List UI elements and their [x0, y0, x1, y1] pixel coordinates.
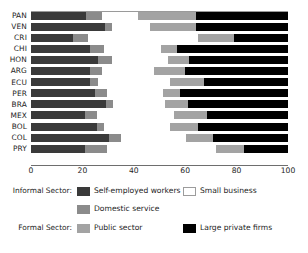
bar-segment	[121, 134, 187, 142]
legend-swatch-public-sector-icon	[77, 224, 90, 233]
bar-track	[31, 134, 288, 142]
bar-segment	[244, 145, 288, 153]
bar-category-label: PER	[0, 88, 27, 99]
bar-segment	[85, 145, 107, 153]
bar-track	[31, 23, 288, 31]
bar-category-label: CRI	[0, 32, 27, 43]
bar-segment	[204, 78, 288, 86]
bar-segment	[170, 123, 198, 131]
bar-segment	[97, 123, 105, 131]
legend-item-small-business[interactable]: Small business	[183, 185, 257, 197]
bar-row: CHI	[0, 43, 308, 54]
bar-category-label: BOL	[0, 121, 27, 132]
bar-row: BOL	[0, 121, 308, 132]
bar-category-label: BRA	[0, 99, 27, 110]
bar-category-label: MEX	[0, 110, 27, 121]
bar-segment	[98, 56, 112, 64]
bar-segment	[90, 45, 104, 53]
bar-segment	[104, 123, 170, 131]
bar-category-label: ECU	[0, 77, 27, 88]
bar-segment	[150, 23, 196, 31]
bar-row: BRA	[0, 99, 308, 110]
bar-category-label: PAN	[0, 10, 27, 21]
bar-segment	[31, 134, 109, 142]
plot-area: PANVENCRICHIHONARGECUPERBRAMEXBOLCOLPRY	[0, 10, 308, 165]
bar-segment	[31, 45, 90, 53]
stacked-bar-chart: PANVENCRICHIHONARGECUPERBRAMEXBOLCOLPRY …	[0, 0, 308, 253]
bar-row: ECU	[0, 77, 308, 88]
bar-segment	[97, 111, 174, 119]
bar-segment	[104, 45, 161, 53]
bar-segment	[31, 56, 98, 64]
legend-item-public-sector[interactable]: Public sector	[77, 222, 142, 234]
legend-label-self-employed: Self-employed workers	[94, 185, 181, 197]
bar-track	[31, 145, 288, 153]
bar-row: MEX	[0, 110, 308, 121]
legend-item-large-private-firms[interactable]: Large private firms	[183, 222, 272, 234]
bar-segment	[185, 67, 288, 75]
bar-segment	[188, 100, 288, 108]
legend-item-self-employed[interactable]: Self-employed workers	[77, 185, 181, 197]
x-tick-label: 0	[29, 166, 34, 175]
bar-segment	[168, 56, 189, 64]
legend-label-large-private-firms: Large private firms	[200, 222, 272, 234]
bar-track	[31, 89, 288, 97]
legend-label-small-business: Small business	[200, 185, 257, 197]
bar-segment	[107, 89, 164, 97]
bar-segment	[207, 111, 288, 119]
bar-segment	[102, 67, 155, 75]
bar-track	[31, 100, 288, 108]
x-tick-label: 60	[180, 166, 190, 175]
legend-label-public-sector: Public sector	[94, 222, 142, 234]
legend-swatch-large-private-firms-icon	[183, 224, 196, 233]
bar-row: HON	[0, 54, 308, 65]
bar-track	[31, 56, 288, 64]
legend-label-domestic-service: Domestic service	[94, 203, 159, 215]
bar-segment	[216, 145, 244, 153]
bar-row: PER	[0, 88, 308, 99]
bar-segment	[161, 45, 178, 53]
bar-category-label: ARG	[0, 65, 27, 76]
bar-segment	[112, 23, 150, 31]
bar-segment	[102, 12, 138, 20]
bar-segment	[198, 34, 234, 42]
bar-row: VEN	[0, 21, 308, 32]
chart-legend: Informal Sector: Self-employed workers S…	[0, 184, 308, 253]
bar-segment	[107, 145, 216, 153]
bar-segment	[234, 34, 288, 42]
bar-track	[31, 45, 288, 53]
legend-group-formal-label: Formal Sector:	[0, 222, 72, 234]
bar-row: CRI	[0, 32, 308, 43]
bar-category-label: VEN	[0, 21, 27, 32]
bar-segment	[31, 89, 95, 97]
bar-row: PAN	[0, 10, 308, 21]
bar-segment	[31, 123, 97, 131]
x-tick-label: 100	[281, 166, 296, 175]
bar-segment	[98, 78, 170, 86]
bar-segment	[85, 111, 97, 119]
x-axis-tick-labels: 020406080100	[0, 166, 308, 180]
bar-category-label: PRY	[0, 143, 27, 154]
bar-category-label: CHI	[0, 43, 27, 54]
bar-segment	[112, 56, 169, 64]
bar-track	[31, 111, 288, 119]
legend-swatch-domestic-service-icon	[77, 205, 90, 214]
legend-swatch-self-employed-icon	[77, 187, 90, 196]
legend-item-domestic-service[interactable]: Domestic service	[77, 203, 159, 215]
bar-segment	[196, 23, 288, 31]
bar-track	[31, 78, 288, 86]
bar-category-label: HON	[0, 54, 27, 65]
bar-segment	[31, 12, 86, 20]
bar-segment	[88, 34, 199, 42]
bar-segment	[31, 34, 73, 42]
bar-segment	[90, 67, 102, 75]
bar-segment	[31, 111, 85, 119]
legend-swatch-small-business-icon	[183, 187, 196, 196]
bar-segment	[213, 134, 288, 142]
legend-row-informal-secondary: Domestic service	[0, 203, 308, 220]
x-tick-label: 40	[129, 166, 139, 175]
bar-segment	[105, 23, 112, 31]
bar-segment	[31, 100, 106, 108]
bar-segment	[31, 67, 90, 75]
bar-segment	[154, 67, 185, 75]
